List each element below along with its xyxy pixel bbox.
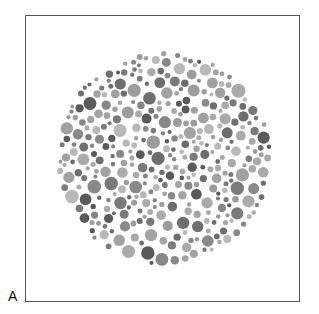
dot-plate: [0, 0, 319, 314]
panel-label: A: [8, 288, 17, 304]
